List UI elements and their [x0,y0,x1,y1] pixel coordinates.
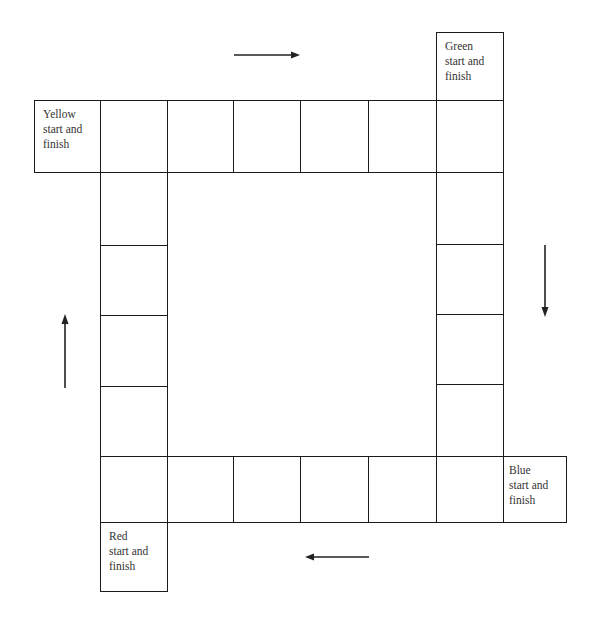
track-square [100,386,168,457]
start-label-line: start and [509,478,566,493]
track-square [436,456,504,523]
start-label-line: start and [109,544,167,559]
track-square [436,384,504,457]
start-label-line: start and [43,122,100,137]
start-label-line: finish [43,137,100,152]
start-label-line: Blue [509,463,566,478]
track-square [167,456,234,523]
red-start-square: Red start and finish [100,522,168,592]
start-label-line: start and [445,54,503,69]
start-label-line: Green [445,39,503,54]
green-start-square: Green start and finish [436,32,504,101]
start-label-line: Red [109,529,167,544]
arrow-right-icon [232,49,302,61]
start-label-line: Yellow [43,107,100,122]
track-square [233,456,301,523]
arrow-left-icon [303,551,371,563]
track-square [368,456,437,523]
track-square [100,315,168,387]
track-square [100,245,168,316]
track-square [100,172,168,246]
yellow-start-square: Yellow start and finish [34,100,101,173]
track-square [167,100,234,173]
start-label-line: finish [509,493,566,508]
track-square [100,100,168,173]
start-label-line: finish [109,559,167,574]
track-square [436,172,504,245]
track-square [233,100,301,173]
track-square [436,100,504,173]
track-square [100,456,168,523]
track-square [436,314,504,385]
track-square [436,244,504,315]
arrow-down-icon [539,243,551,319]
track-square [368,100,437,173]
game-board: Yellow start and finish Green start and … [0,0,598,621]
blue-start-square: Blue start and finish [503,456,567,523]
track-square [300,100,369,173]
start-label-line: finish [445,69,503,84]
arrow-up-icon [59,312,71,390]
track-square [300,456,369,523]
